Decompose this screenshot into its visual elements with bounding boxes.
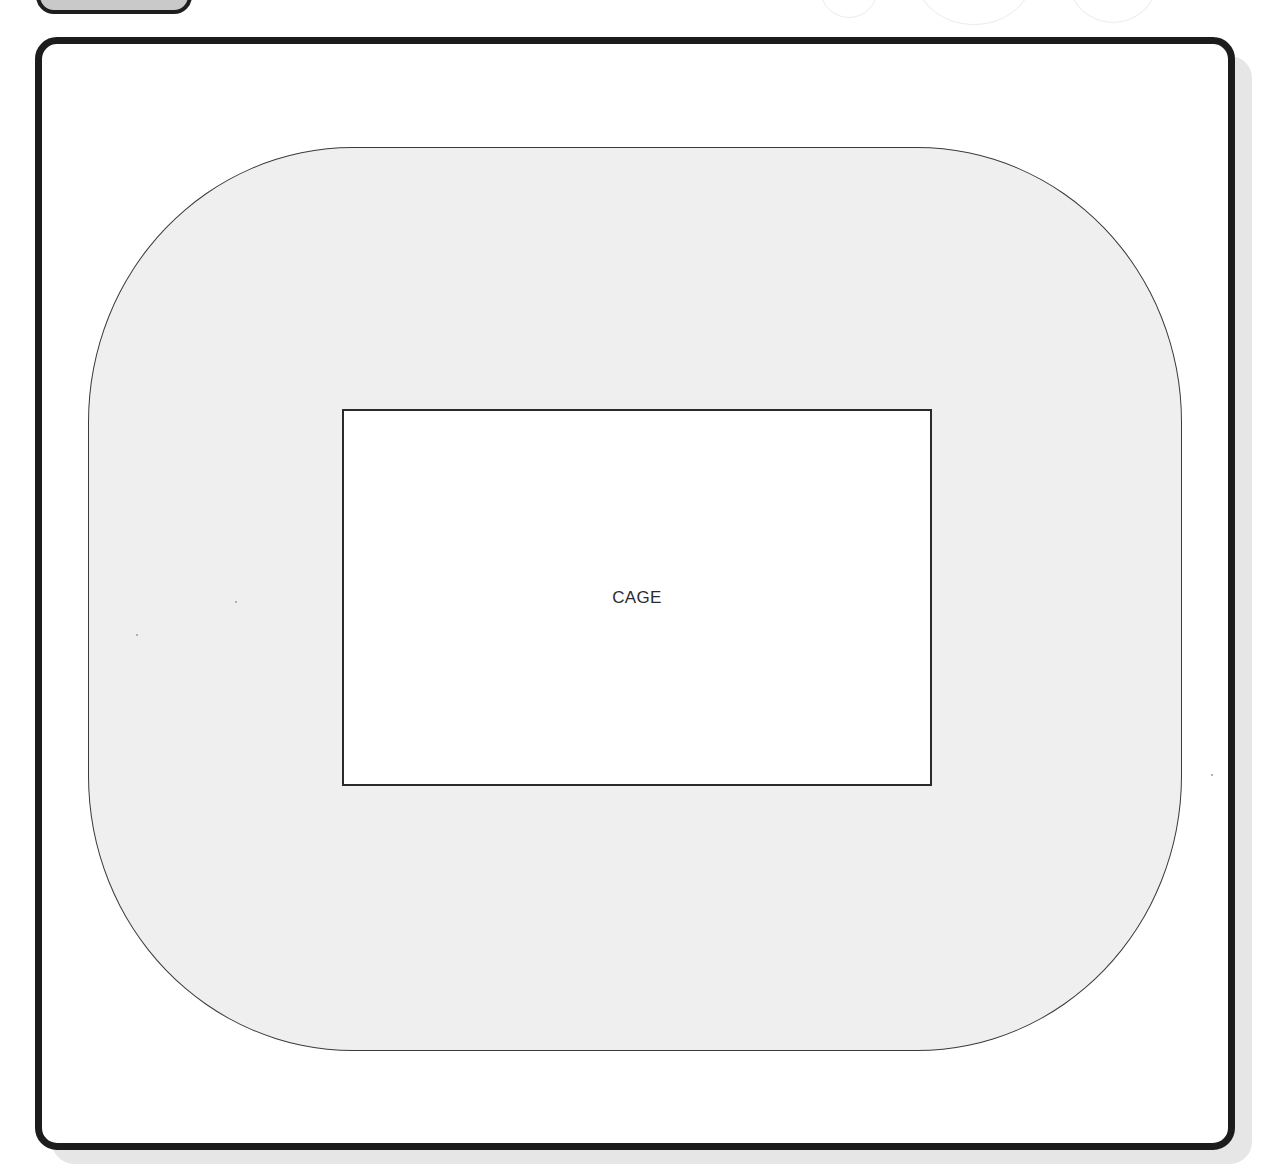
- speck-mark: [1211, 774, 1213, 776]
- speck-mark: [235, 601, 237, 603]
- ghost-circle-icon: [820, 0, 878, 18]
- top-tab-button[interactable]: [36, 0, 192, 14]
- ghost-circle-icon: [915, 0, 1033, 25]
- cage-label: CAGE: [612, 588, 661, 608]
- ghost-circle-icon: [1070, 0, 1156, 23]
- speck-mark: [136, 634, 138, 636]
- cage-area: CAGE: [342, 409, 932, 786]
